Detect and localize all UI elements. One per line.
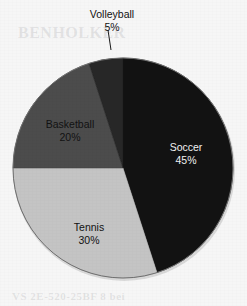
slice-value-tennis: 30% xyxy=(78,234,99,246)
slice-value-soccer: 45% xyxy=(175,154,196,166)
slice-label-soccer: Soccer xyxy=(170,141,203,153)
pie-chart-figure: BENHOLKER VS 2E-520-25BF 8 bei Soccer 45… xyxy=(0,0,247,306)
pie-chart-svg: Soccer 45% Tennis 30% Basketball 20% Vol… xyxy=(0,0,247,306)
slice-value-volleyball: 5% xyxy=(104,21,119,33)
slice-value-basketball: 20% xyxy=(59,131,80,143)
slice-label-basketball: Basketball xyxy=(46,118,94,130)
volleyball-leader-line xyxy=(108,30,111,50)
slice-label-tennis: Tennis xyxy=(74,221,104,233)
slice-label-volleyball: Volleyball xyxy=(90,8,134,20)
